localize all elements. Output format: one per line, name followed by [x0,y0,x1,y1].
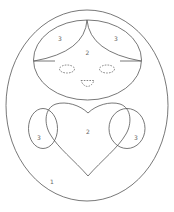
head-outline [34,20,142,100]
cheek-left [29,109,58,149]
label-cheek-left: 3 [37,134,41,141]
heart-outline [46,103,130,176]
cheek-right [109,109,145,149]
doll-body-outline [6,10,168,201]
mouth [81,81,94,87]
label-face: 2 [86,49,90,56]
doll-diagram: 3 3 2 2 3 3 1 [0,0,174,212]
label-hair-right: 3 [114,35,118,42]
label-heart: 2 [86,128,90,135]
eye-right [100,65,115,73]
eye-left [60,65,75,73]
label-cheek-right: 3 [134,134,138,141]
label-hair-left: 3 [58,35,62,42]
label-body: 1 [50,178,54,185]
